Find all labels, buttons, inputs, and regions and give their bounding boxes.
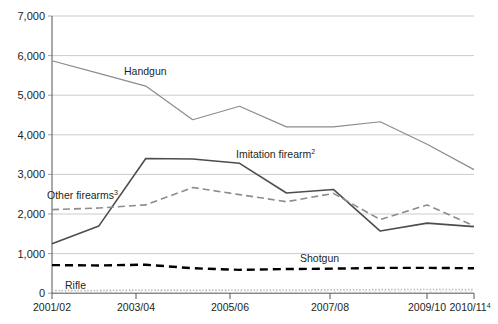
series-label-handgun-text: Handgun (124, 65, 167, 77)
x-axis-major-ticks (52, 293, 474, 299)
xtick-label-2007-08: 2007/08 (311, 301, 349, 313)
series-line-imitation-firearm (52, 159, 474, 244)
xtick-label-2009-10: 2009/10 (408, 301, 446, 313)
chart-container: 7,000 6,000 5,000 4,000 3,000 2,000 1,00… (0, 0, 498, 324)
series-label-other-firearms-text: Other firearms (47, 189, 114, 201)
series-label-rifle-text: Rifle (65, 279, 86, 291)
xtick-label-2001-02: 2001/02 (33, 301, 71, 313)
series-label-shotgun-text: Shotgun (300, 252, 339, 264)
ytick-label-3000: 3,000 (17, 168, 45, 180)
x-axis-labels: 2001/02 2003/04 2005/06 2007/08 2009/10 … (33, 301, 491, 313)
xtick-label-2010-11-superscript: 4 (487, 302, 491, 309)
xtick-label-2010-11-text: 2010/11 (449, 301, 486, 313)
ytick-label-0: 0 (39, 287, 45, 299)
line-chart: 7,000 6,000 5,000 4,000 3,000 2,000 1,00… (0, 0, 498, 324)
y-axis-labels: 7,000 6,000 5,000 4,000 3,000 2,000 1,00… (17, 10, 45, 299)
series-label-rifle: Rifle (65, 279, 86, 291)
ytick-label-2000: 2,000 (17, 208, 45, 220)
series-labels: Handgun Imitation firearm2 Other firearm… (47, 65, 339, 291)
series-label-other-firearms: Other firearms3 (47, 189, 118, 201)
xtick-label-2010-11: 2010/114 (449, 301, 490, 313)
y-axis-ticks (48, 16, 52, 293)
ytick-label-1000: 1,000 (17, 248, 45, 260)
xtick-label-2003-04: 2003/04 (117, 301, 155, 313)
ytick-label-7000: 7,000 (17, 10, 45, 22)
series-label-imitation-firearm: Imitation firearm2 (236, 148, 315, 160)
series-label-other-firearms-superscript: 3 (114, 189, 118, 196)
ytick-label-6000: 6,000 (17, 50, 45, 62)
ytick-label-5000: 5,000 (17, 89, 45, 101)
gridlines (52, 16, 474, 254)
ytick-label-4000: 4,000 (17, 129, 45, 141)
series-line-rifle (52, 289, 474, 290)
series-label-handgun: Handgun (124, 65, 167, 77)
xtick-label-2005-06: 2005/06 (211, 301, 249, 313)
series-label-imitation-firearm-superscript: 2 (311, 148, 315, 155)
series-label-imitation-firearm-text: Imitation firearm (236, 148, 312, 160)
series-line-shotgun (52, 265, 474, 270)
series-label-shotgun: Shotgun (300, 252, 339, 264)
